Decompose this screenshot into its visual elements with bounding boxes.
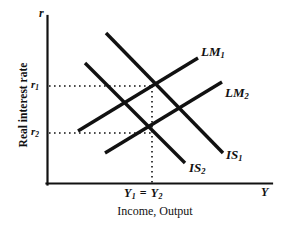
y-tick-label-r1: r1	[31, 79, 39, 90]
y-tick-r2-sub: 2	[35, 130, 39, 139]
curve-label-is1-sub: 1	[238, 153, 242, 163]
curve-lm1	[78, 58, 198, 131]
y-tick-r1-sub: 1	[35, 83, 39, 92]
is-lm-figure: r Y r1 r2 Y1 = Y2 LM1 LM2 IS1 IS2 Real i…	[0, 0, 290, 226]
x-tick-y1-main: Y	[124, 186, 132, 200]
y-axis-title-wrapper: Real interest rate	[13, 39, 31, 171]
curve-label-lm2-sub: 2	[245, 91, 249, 101]
y-tick-label-r2: r2	[31, 126, 39, 137]
curve-label-lm1: LM1	[201, 45, 225, 58]
y-axis-symbol: r	[39, 7, 44, 19]
x-tick-equals-sign: =	[136, 186, 150, 200]
curve-label-lm1-main: LM	[201, 44, 221, 59]
curve-label-lm2-main: LM	[225, 85, 245, 100]
curve-label-is2-sub: 2	[201, 166, 205, 176]
x-tick-y2-main: Y	[151, 186, 159, 200]
x-axis-symbol: Y	[261, 186, 268, 198]
x-tick-label-equilibrium: Y1 = Y2	[124, 187, 163, 199]
x-tick-y1-sub: 1	[132, 192, 137, 201]
curve-label-is2: IS2	[189, 161, 206, 174]
curve-label-is1-main: IS	[226, 147, 238, 162]
x-axis-title: Income, Output	[0, 205, 290, 217]
curve-label-lm2: LM2	[225, 86, 249, 99]
curve-label-is1: IS1	[226, 148, 243, 161]
curve-label-is2-main: IS	[189, 160, 201, 175]
y-axis-title: Real interest rate	[17, 63, 29, 148]
curve-label-lm1-sub: 1	[221, 50, 225, 60]
x-tick-y2-sub: 2	[159, 192, 164, 201]
